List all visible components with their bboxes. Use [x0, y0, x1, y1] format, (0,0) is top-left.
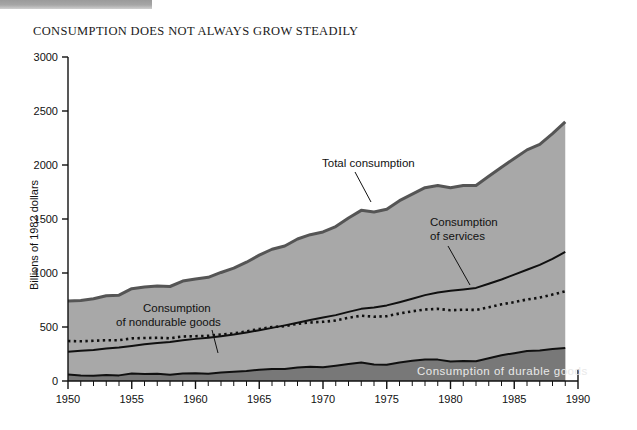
annotation-durable-goods: Consumption of durable goods: [417, 365, 588, 377]
annotation-services-line2: of services: [430, 230, 485, 242]
x-tick-label: 1970: [311, 393, 335, 405]
leader-line-total: [355, 172, 371, 202]
x-tick-label: 1965: [247, 393, 271, 405]
annotation-services-line1: Consumption: [430, 216, 498, 228]
x-tick-label: 1955: [120, 393, 144, 405]
x-tick-label: 1960: [183, 393, 207, 405]
y-tick-label: 2000: [34, 159, 58, 171]
x-tick-label: 1950: [56, 393, 80, 405]
y-tick-label: 3000: [34, 51, 58, 63]
x-tick-label: 1980: [438, 393, 462, 405]
y-axis-title: Billions of 1982 dollars: [28, 179, 40, 290]
chart-canvas: 050010001500200025003000 195019551960196…: [0, 0, 637, 430]
series-total-consumption-area: [68, 122, 565, 381]
x-tick-label: 1990: [566, 393, 590, 405]
annotation-nondurable-line1: Consumption: [143, 302, 211, 314]
x-tick-label: 1985: [502, 393, 526, 405]
annotation-nondurable-line2: of nondurable goods: [116, 316, 221, 328]
y-tick-label: 500: [40, 321, 58, 333]
x-tick-label: 1975: [375, 393, 399, 405]
annotation-total-consumption: Total consumption: [322, 157, 415, 169]
y-tick-label: 0: [52, 375, 58, 387]
consumption-area-chart: 050010001500200025003000 195019551960196…: [0, 0, 637, 430]
y-tick-label: 2500: [34, 105, 58, 117]
